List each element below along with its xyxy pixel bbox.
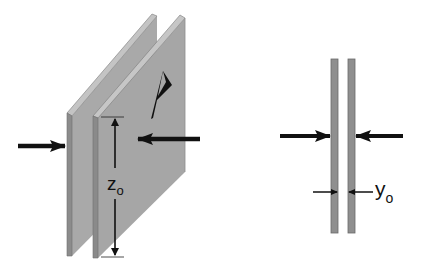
y0-label: yo <box>375 177 394 206</box>
parallel-plates-diagram: zo yo <box>0 0 421 269</box>
perspective-view: zo <box>18 14 200 258</box>
edge-view: yo <box>280 59 403 233</box>
right-plate-edge <box>348 59 355 233</box>
left-plate-edge <box>331 59 338 233</box>
